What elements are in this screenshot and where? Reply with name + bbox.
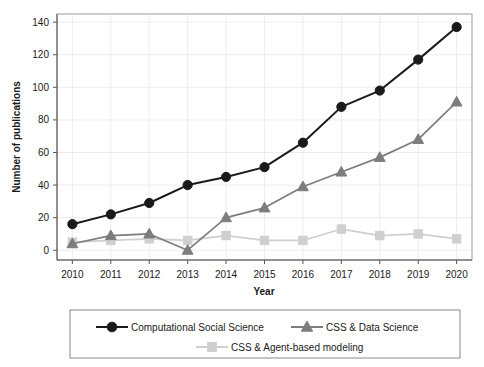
square-marker — [208, 343, 217, 352]
x-axis-title: Year — [253, 286, 274, 297]
square-marker — [183, 236, 191, 244]
x-tick-label: 2016 — [292, 269, 315, 280]
circle-marker — [106, 210, 115, 219]
square-marker — [376, 231, 384, 239]
x-tick-label: 2013 — [177, 269, 200, 280]
circle-marker — [375, 86, 384, 95]
y-tick-label: 20 — [38, 212, 50, 223]
square-marker — [337, 225, 345, 233]
y-axis-title: Number of publications — [11, 81, 22, 193]
circle-marker — [337, 102, 346, 111]
circle-marker — [145, 198, 154, 207]
circle-marker — [452, 22, 461, 31]
legend-label: CSS & Data Science — [326, 322, 419, 333]
circle-marker — [221, 172, 230, 181]
y-tick-label: 40 — [38, 180, 50, 191]
circle-marker — [107, 322, 117, 332]
x-tick-label: 2012 — [138, 269, 161, 280]
y-tick-label: 100 — [32, 82, 49, 93]
x-tick-label: 2018 — [369, 269, 392, 280]
x-tick-label: 2017 — [330, 269, 353, 280]
y-tick-label: 140 — [32, 17, 49, 28]
x-tick-label: 2011 — [100, 269, 122, 280]
square-marker — [260, 236, 268, 244]
circle-marker — [183, 180, 192, 189]
x-tick-label: 2015 — [253, 269, 276, 280]
y-tick-label: 60 — [38, 147, 50, 158]
y-tick-label: 0 — [43, 245, 49, 256]
publications-line-chart: 020406080100120140 Number of publication… — [0, 0, 484, 367]
legend-label: Computational Social Science — [131, 322, 264, 333]
square-marker — [222, 231, 230, 239]
circle-marker — [414, 55, 423, 64]
plot-area — [57, 14, 472, 260]
x-tick-label: 2020 — [446, 269, 469, 280]
chart-legend: Computational Social ScienceCSS & Data S… — [70, 310, 460, 358]
x-tick-label: 2014 — [215, 269, 238, 280]
circle-marker — [298, 138, 307, 147]
y-tick-label: 120 — [32, 49, 49, 60]
x-tick-label: 2010 — [61, 269, 84, 280]
circle-marker — [68, 220, 77, 229]
legend-label: CSS & Agent-based modeling — [231, 342, 363, 353]
y-tick-label: 80 — [38, 114, 50, 125]
circle-marker — [260, 163, 269, 172]
square-marker — [452, 235, 460, 243]
x-tick-label: 2019 — [407, 269, 430, 280]
square-marker — [299, 236, 307, 244]
square-marker — [414, 230, 422, 238]
